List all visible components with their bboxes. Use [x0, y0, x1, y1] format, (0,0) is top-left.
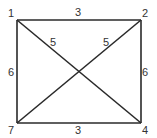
weight-1-2: 3 — [75, 6, 81, 18]
weight-1-4: 5 — [50, 36, 56, 48]
node-label-7: 7 — [8, 124, 14, 136]
weight-7-2: 5 — [103, 36, 109, 48]
weight-1-7: 6 — [8, 66, 14, 78]
weight-7-4: 3 — [75, 124, 81, 136]
graph-diagram: 1 2 4 7 3 6 3 6 5 5 — [0, 0, 157, 138]
node-label-1: 1 — [8, 7, 14, 19]
node-label-2: 2 — [142, 7, 148, 19]
weight-2-4: 6 — [142, 66, 148, 78]
node-label-4: 4 — [142, 124, 148, 136]
